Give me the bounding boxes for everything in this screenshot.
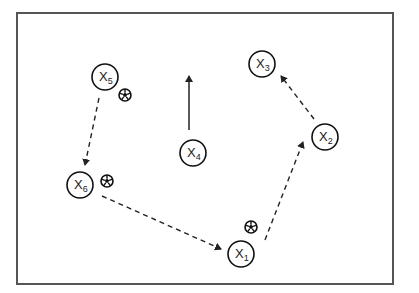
drill-diagram: X1X2X3X4X5X6: [0, 0, 419, 293]
soccer-ball-icon: [101, 175, 113, 187]
soccer-ball-icon: [245, 221, 257, 233]
player-x4: X4: [180, 140, 206, 166]
player-x2: X2: [312, 124, 338, 150]
player-x3: X3: [249, 51, 275, 77]
player-x5: X5: [92, 64, 118, 90]
player-x1: X1: [228, 241, 254, 267]
player-x6: X6: [67, 172, 93, 198]
soccer-ball-icon: [119, 89, 131, 101]
